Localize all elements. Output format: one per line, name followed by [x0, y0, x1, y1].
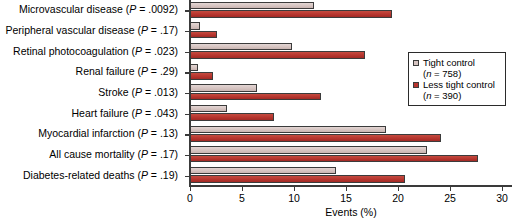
- bar-less-tight-control: [190, 10, 392, 18]
- bar-less-tight-control: [190, 175, 405, 183]
- x-axis-tick: [294, 186, 295, 191]
- x-axis-tick: [398, 186, 399, 191]
- bar-tight-control: [190, 105, 227, 113]
- y-axis-tick: [185, 52, 190, 53]
- bar-group: [190, 125, 512, 143]
- legend-label-less-tight-control: Less tight control: [423, 79, 495, 90]
- bar-group: [190, 104, 512, 122]
- bar-less-tight-control: [190, 51, 365, 59]
- bar-group: [190, 146, 512, 164]
- x-axis-tick-label: 10: [288, 192, 300, 204]
- bar-less-tight-control: [190, 155, 478, 163]
- category-label: Retinal photocoagulation (P = .023): [0, 46, 178, 57]
- x-axis-tick: [242, 186, 243, 191]
- bar-tight-control: [190, 64, 198, 72]
- legend-n-tight-control: (n = 758): [413, 68, 501, 79]
- legend-item-less-tight-control: Less tight control: [413, 79, 501, 90]
- x-axis-tick-label: 5: [239, 192, 245, 204]
- category-label: Microvascular disease (P = .0092): [0, 4, 178, 15]
- category-label: All cause mortality (P = .17): [0, 149, 178, 160]
- legend-swatch-icon-tight-control: [413, 60, 419, 66]
- bar-tight-control: [190, 126, 386, 134]
- x-axis-tick-label: 0: [187, 192, 193, 204]
- y-axis-tick: [185, 31, 190, 32]
- legend-n-less-tight-control: (n = 390): [413, 90, 501, 101]
- bar-less-tight-control: [190, 31, 217, 39]
- x-axis-tick: [450, 186, 451, 191]
- bar-less-tight-control: [190, 72, 213, 80]
- chart-legend: Tight control (n = 758) Less tight contr…: [408, 52, 506, 106]
- legend-n-value-less-tight: = 390): [431, 90, 461, 101]
- y-axis-tick: [185, 134, 190, 135]
- bar-tight-control: [190, 2, 314, 10]
- bar-less-tight-control: [190, 93, 321, 101]
- bar-tight-control: [190, 146, 427, 154]
- y-axis-tick: [185, 114, 190, 115]
- bar-group: [190, 1, 512, 19]
- y-axis-tick: [185, 155, 190, 156]
- legend-label-tight-control: Tight control: [423, 57, 475, 68]
- category-axis-labels: Microvascular disease (P = .0092)Periphe…: [0, 0, 184, 186]
- category-label: Diabetes-related deaths (P = .19): [0, 170, 178, 181]
- x-axis-tick-label: 20: [392, 192, 404, 204]
- bar-tight-control: [190, 84, 257, 92]
- category-label: Myocardial infarction (P = .13): [0, 128, 178, 139]
- bar-group: [190, 22, 512, 40]
- y-axis-tick: [185, 176, 190, 177]
- bar-less-tight-control: [190, 134, 441, 142]
- chart-container: Microvascular disease (P = .0092)Periphe…: [0, 0, 523, 223]
- x-axis-tick: [346, 186, 347, 191]
- y-axis-tick: [185, 72, 190, 73]
- x-axis-tick-label: 15: [340, 192, 352, 204]
- x-axis-line: [189, 185, 512, 187]
- bar-less-tight-control: [190, 113, 274, 121]
- bar-tight-control: [190, 22, 200, 30]
- category-label: Heart failure (P = .043): [0, 108, 178, 119]
- x-axis-tick-label: 30: [496, 192, 508, 204]
- y-axis-tick: [185, 93, 190, 94]
- legend-n-value-tight: = 758): [431, 68, 461, 79]
- x-axis-tick: [502, 186, 503, 191]
- bar-tight-control: [190, 167, 336, 175]
- category-label: Stroke (P = .013): [0, 87, 178, 98]
- bar-tight-control: [190, 43, 292, 51]
- bar-group: [190, 166, 512, 184]
- category-label: Renal failure (P = .29): [0, 66, 178, 77]
- legend-item-tight-control: Tight control: [413, 57, 501, 68]
- x-axis-title: Events (%): [190, 206, 512, 218]
- x-axis-tick: [190, 186, 191, 191]
- category-label: Peripheral vascular disease (P = .17): [0, 25, 178, 36]
- legend-swatch-icon-less-tight-control: [413, 82, 419, 88]
- x-axis-tick-label: 25: [444, 192, 456, 204]
- y-axis-tick: [185, 10, 190, 11]
